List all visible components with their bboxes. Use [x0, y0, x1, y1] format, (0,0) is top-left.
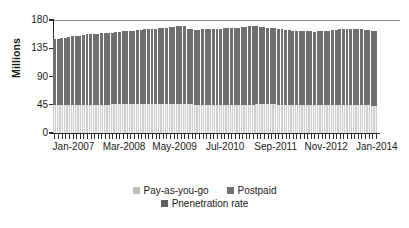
x-tick-label-jul-2010: Jul-2010	[206, 141, 244, 153]
y-tick-label-45: 45	[25, 100, 48, 110]
x-tick-mark	[228, 134, 229, 139]
x-tick-mark	[54, 134, 55, 139]
bar-segment-postpaid	[140, 30, 143, 104]
bar-column	[237, 28, 240, 133]
bar-column	[374, 31, 377, 133]
x-tick-mark	[358, 134, 359, 139]
bar-segment-pay-as-you-go	[176, 104, 179, 133]
bar-column	[143, 29, 146, 133]
bar-segment-pay-as-you-go	[302, 105, 305, 133]
bar-segment-postpaid	[331, 30, 334, 105]
x-tick-mark	[372, 134, 373, 139]
chart-container: Millions 04590135180 Jan-2007Mar-2008May…	[0, 0, 409, 228]
x-tick-mark	[69, 134, 70, 139]
bar-segment-pay-as-you-go	[60, 105, 63, 133]
bar-segment-pay-as-you-go	[57, 105, 60, 133]
x-tick-mark	[307, 134, 308, 139]
bar-segment-postpaid	[281, 29, 284, 104]
y-tick-label-90: 90	[25, 72, 48, 82]
bar-segment-postpaid	[136, 30, 139, 104]
bar-segment-pay-as-you-go	[143, 104, 146, 133]
bar-segment-pay-as-you-go	[169, 104, 172, 133]
bar-segment-pay-as-you-go	[226, 105, 229, 133]
bar-column	[248, 26, 251, 133]
x-tick-mark	[322, 134, 323, 139]
bar-segment-postpaid	[197, 30, 200, 105]
x-tick-label-jan-2014: Jan-2014	[356, 141, 398, 153]
bar-segment-pay-as-you-go	[324, 105, 327, 133]
bar-segment-postpaid	[277, 29, 280, 105]
bar-segment-pay-as-you-go	[367, 105, 370, 133]
bar-segment-postpaid	[201, 29, 204, 104]
bar-column	[273, 28, 276, 133]
bar-column	[205, 29, 208, 133]
bar-segment-postpaid	[273, 28, 276, 104]
bar-column	[371, 31, 374, 133]
y-tick-text: 90	[25, 72, 48, 82]
y-tick-text: 0	[25, 128, 48, 138]
x-tick-mark	[289, 134, 290, 139]
legend-swatch-icon	[227, 187, 234, 194]
bar-segment-pay-as-you-go	[270, 104, 273, 133]
bar-segment-postpaid	[223, 28, 226, 105]
bar-segment-pay-as-you-go	[346, 105, 349, 133]
bar-column	[219, 29, 222, 133]
bar-segment-pay-as-you-go	[125, 104, 128, 133]
bar-segment-postpaid	[302, 31, 305, 104]
bar-column	[161, 28, 164, 133]
x-tick-mark	[239, 134, 240, 139]
x-tick-mark	[231, 134, 232, 139]
x-tick-mark	[181, 134, 182, 139]
bar-column	[320, 31, 323, 133]
bar-column	[262, 27, 265, 133]
bar-segment-pay-as-you-go	[179, 104, 182, 133]
bar-column	[82, 35, 85, 133]
x-tick-mark	[101, 134, 102, 139]
bar-column	[111, 33, 114, 133]
bar-segment-postpaid	[169, 27, 172, 104]
bar-column	[100, 33, 103, 133]
bar-segment-pay-as-you-go	[114, 104, 117, 133]
bar-segment-postpaid	[86, 34, 89, 104]
bar-segment-postpaid	[93, 34, 96, 105]
x-tick-mark	[314, 134, 315, 139]
legend-item-postpaid[interactable]: Postpaid	[227, 185, 277, 196]
legend-swatch-icon	[133, 187, 140, 194]
x-tick-mark	[340, 134, 341, 139]
bar-column	[353, 29, 356, 133]
x-tick-mark	[221, 134, 222, 139]
x-tick-label-may-2009: May-2009	[152, 141, 196, 153]
bar-segment-pay-as-you-go	[212, 105, 215, 133]
bar-segment-pay-as-you-go	[306, 105, 309, 133]
x-tick-mark	[224, 134, 225, 139]
bar-segment-pay-as-you-go	[96, 105, 99, 133]
legend-item-penetration-rate[interactable]: Pnenetration rate	[161, 198, 249, 209]
y-tick-text: 180	[25, 15, 48, 25]
legend-item-pay-as-you-go[interactable]: Pay-as-you-go	[133, 185, 209, 196]
bar-segment-postpaid	[219, 29, 222, 105]
bar-column	[338, 29, 341, 133]
bar-segment-pay-as-you-go	[262, 104, 265, 133]
bar-segment-postpaid	[327, 31, 330, 106]
bar-segment-pay-as-you-go	[82, 105, 85, 133]
bar-segment-pay-as-you-go	[353, 105, 356, 133]
legend-row-2: Pnenetration rate	[0, 197, 409, 210]
x-tick-mark	[98, 134, 99, 139]
x-tick-mark	[184, 134, 185, 139]
x-tick-mark	[94, 134, 95, 139]
bar-segment-pay-as-you-go	[364, 105, 367, 133]
bar-segment-pay-as-you-go	[266, 104, 269, 133]
x-tick-mark	[347, 134, 348, 139]
bar-segment-pay-as-you-go	[151, 104, 154, 133]
bar-segment-postpaid	[252, 26, 255, 104]
bar-segment-pay-as-you-go	[190, 104, 193, 133]
bar-segment-pay-as-you-go	[234, 105, 237, 133]
bar-column	[57, 39, 60, 133]
bar-column	[226, 28, 229, 133]
y-tick-label-180: 180	[25, 15, 48, 25]
bar-segment-postpaid	[96, 34, 99, 105]
bar-column	[194, 30, 197, 133]
bar-column	[346, 29, 349, 133]
bar-column	[154, 29, 157, 133]
bar-segment-pay-as-you-go	[161, 104, 164, 133]
